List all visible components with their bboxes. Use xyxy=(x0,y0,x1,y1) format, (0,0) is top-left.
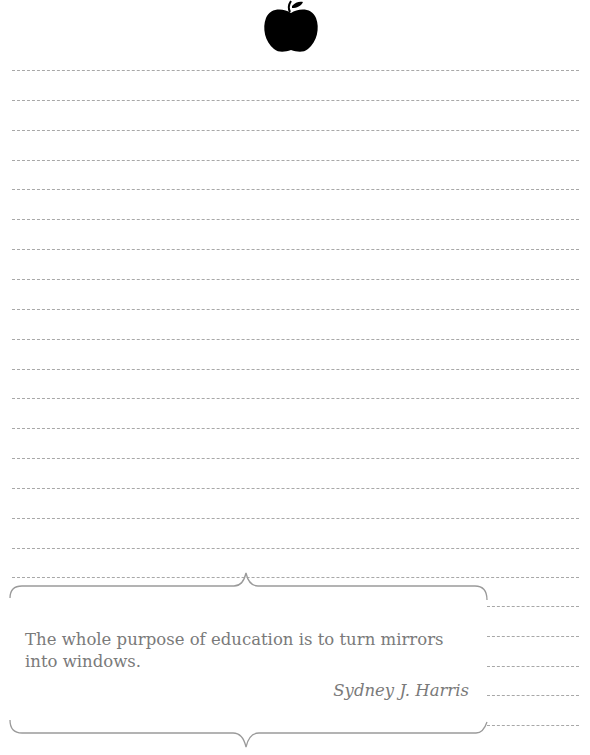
writing-line xyxy=(12,70,579,71)
writing-line xyxy=(12,189,579,190)
writing-line xyxy=(12,428,579,429)
writing-line xyxy=(12,458,579,459)
writing-line xyxy=(12,369,579,370)
writing-line-short xyxy=(487,725,579,726)
writing-line xyxy=(12,518,579,519)
writing-line xyxy=(12,488,579,489)
writing-line-short xyxy=(487,666,579,667)
writing-line xyxy=(12,398,579,399)
writing-line xyxy=(12,249,579,250)
quote-author: Sydney J. Harris xyxy=(25,680,469,702)
writing-line xyxy=(12,577,579,578)
quote-text: The whole purpose of education is to tur… xyxy=(25,629,470,673)
writing-line xyxy=(12,279,579,280)
writing-line xyxy=(12,548,579,549)
writing-line xyxy=(12,160,579,161)
writing-line-short xyxy=(487,636,579,637)
writing-line-short xyxy=(487,695,579,696)
apple-icon xyxy=(262,0,320,54)
writing-line xyxy=(12,130,579,131)
writing-line-short xyxy=(487,606,579,607)
writing-line xyxy=(12,100,579,101)
writing-line xyxy=(12,219,579,220)
writing-line xyxy=(12,309,579,310)
writing-line xyxy=(12,339,579,340)
